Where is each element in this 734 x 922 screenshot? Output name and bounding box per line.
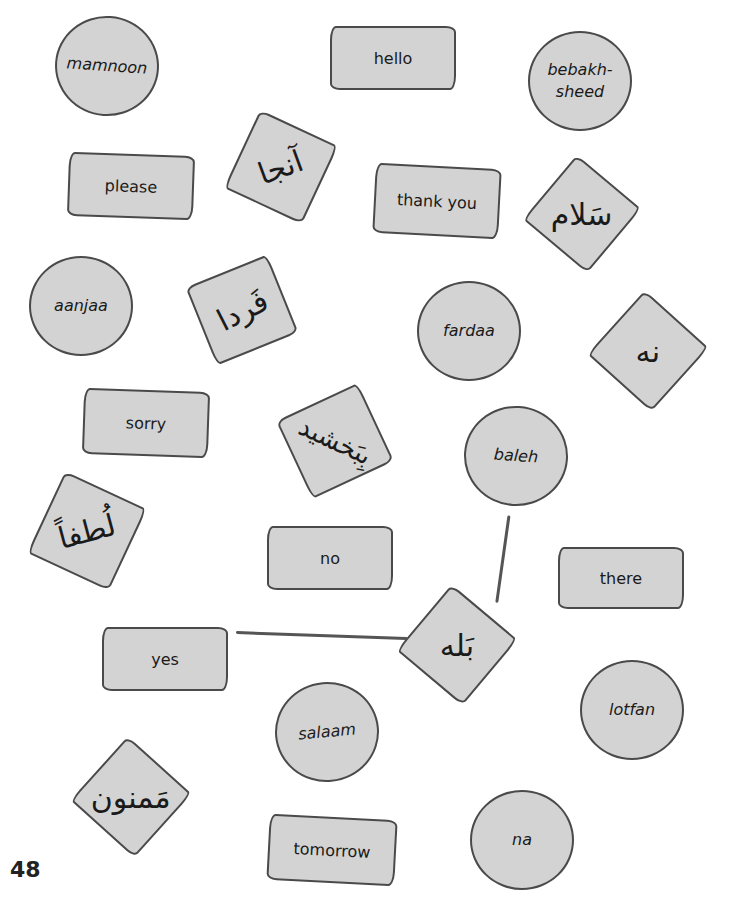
card-label: نه xyxy=(636,334,660,369)
card-label: hello xyxy=(374,49,413,68)
circle-na[interactable]: na xyxy=(470,790,574,890)
circle-fardaa[interactable]: fardaa xyxy=(417,281,521,381)
card-na-persian[interactable]: نه xyxy=(587,290,708,411)
connector-yes-baleh xyxy=(236,631,408,640)
circle-label: mamnoon xyxy=(66,52,148,79)
circle-label: salaam xyxy=(297,719,356,746)
circle-salaam[interactable]: salaam xyxy=(271,678,383,787)
page-number: 48 xyxy=(10,857,41,882)
card-aanjaa-persian[interactable]: آنجا xyxy=(224,110,338,224)
card-please[interactable]: please xyxy=(67,152,195,220)
card-thank-you[interactable]: thank you xyxy=(372,163,501,239)
card-label: بَله xyxy=(440,628,474,663)
card-label: لُطفاً xyxy=(54,507,119,556)
card-baleh-persian[interactable]: بَله xyxy=(396,584,517,705)
circle-label: fardaa xyxy=(443,320,495,342)
connector-baleh-circle xyxy=(495,515,510,603)
card-label: بِبَخشید xyxy=(294,411,376,471)
card-salaam-persian[interactable]: سَلام xyxy=(523,155,641,273)
card-yes[interactable]: yes xyxy=(102,627,228,691)
card-sorry[interactable]: sorry xyxy=(82,388,210,458)
card-label: there xyxy=(600,569,642,588)
circle-label: lotfan xyxy=(609,699,655,721)
circle-baleh[interactable]: baleh xyxy=(461,402,572,509)
card-label: sorry xyxy=(125,413,166,433)
card-label: سَلام xyxy=(551,197,613,232)
circle-label: baleh xyxy=(493,444,539,469)
card-label: no xyxy=(320,549,340,568)
card-label: yes xyxy=(151,650,179,669)
card-label: مَمنون xyxy=(91,780,171,815)
card-label: please xyxy=(104,176,157,197)
card-label: thank you xyxy=(396,189,477,212)
card-no[interactable]: no xyxy=(267,526,393,590)
card-label: فَردا xyxy=(211,282,274,337)
card-there[interactable]: there xyxy=(558,547,684,609)
card-fardaa-persian[interactable]: فَردا xyxy=(185,255,298,366)
circle-label: bebakh-sheed xyxy=(547,59,612,102)
card-tomorrow[interactable]: tomorrow xyxy=(266,814,397,887)
circle-label: na xyxy=(512,829,532,851)
circle-mamnoon[interactable]: mamnoon xyxy=(52,12,163,119)
card-label: آنجا xyxy=(254,143,308,191)
card-hello[interactable]: hello xyxy=(330,26,456,90)
circle-bebakhsheed[interactable]: bebakh-sheed xyxy=(528,31,632,131)
card-label: tomorrow xyxy=(293,839,371,862)
circle-label: aanjaa xyxy=(54,295,108,317)
card-mamnoon-persian[interactable]: مَمنون xyxy=(70,736,191,857)
card-bebakhsheed-persian[interactable]: بِبَخشید xyxy=(276,383,394,499)
card-lotfan-persian[interactable]: لُطفاً xyxy=(27,471,147,591)
circle-aanjaa[interactable]: aanjaa xyxy=(29,256,133,356)
circle-lotfan[interactable]: lotfan xyxy=(580,660,684,760)
